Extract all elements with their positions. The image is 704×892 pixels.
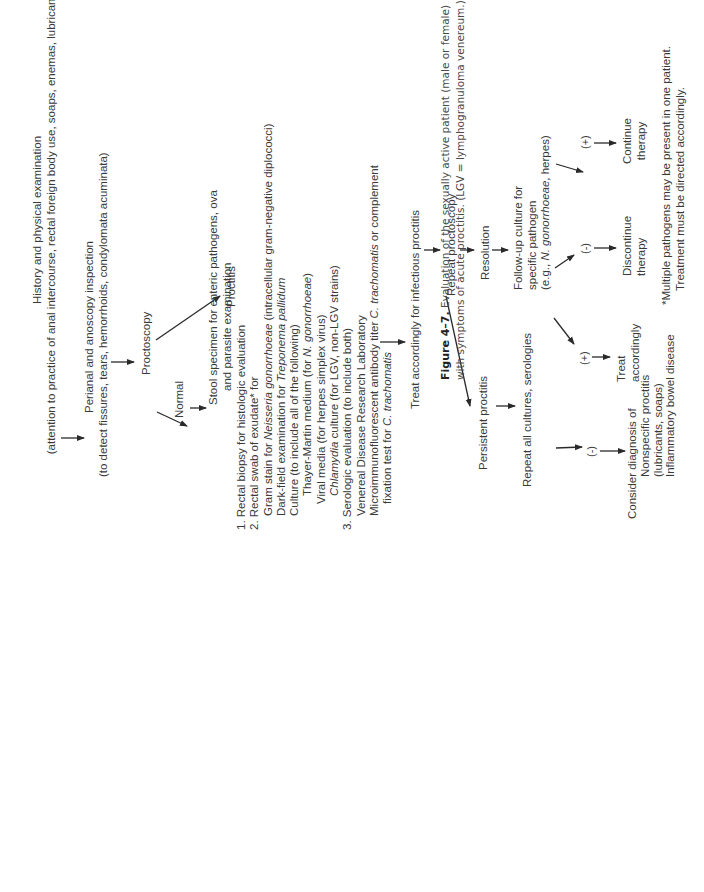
followup-positive-sign: (+) [578,135,592,149]
followup-negative-sign: (-) [578,243,592,254]
node-proctoscopy: Proctoscopy [139,312,153,375]
workup-chlamydia: Chlamydia culture (for LGV, non-LGV stra… [328,124,341,530]
perianal-detail: (to detect fissures, tears, hemorrhoids,… [96,177,110,477]
discontinue-line1: Discontinue [620,216,634,276]
repeat-positive-sign: (+) [577,351,591,365]
workup-viral-media: Viral media (for herpes simplex virus) [315,124,328,530]
caption-line1: Figure 4–7. Evaluation of the sexually a… [438,0,453,380]
workup-item-1: 1. Rectal biopsy for histologic evaluati… [235,124,248,530]
text-italic: C. trachomatis [381,352,393,426]
text: , herpes) [539,135,551,180]
workup-fixation: fixation test for C. trachomatis [381,124,394,530]
text: Gram stain for [262,440,274,516]
stool-line1: Stool specimen for enteric pathogens, ov… [206,190,220,405]
text: fixation test for [381,426,393,504]
followup-line1: Follow-up culture for [512,135,526,290]
figure-caption: Figure 4–7. Evaluation of the sexually a… [438,0,467,380]
repeat-negative-sign: (-) [584,446,598,457]
workup-thayer-martin: Thayer-Martin medium (for N. gonorrhoeae… [301,124,314,530]
node-perianal-inspection: Perianal and anoscopy inspection (to det… [82,177,110,477]
workup-dark-field: Dark-field examination for Treponema pal… [275,124,288,530]
text-italic: Neisseria gonorrhoeae [262,324,274,440]
text-italic: N. gonorrhoeae [539,181,551,261]
text: Microimmunofluorescent antibody titer [368,319,380,517]
text: (e.g., [539,261,551,290]
workup-gram-stain: Gram stain for Neisseria gonorrhoeae (in… [262,124,275,530]
workup-culture: Culture (to include all of the following… [288,124,301,530]
footnote-line1: *Multiple pathogens may be present in on… [660,46,674,305]
history-detail: (attention to practice of anal intercour… [44,0,58,490]
text: Evaluation of the sexually active patien… [439,5,451,308]
discontinue-line2: therapy [634,216,648,276]
consider-line2: Nonspecific proctitis [639,334,652,519]
caption-label: Figure 4–7. [439,311,452,380]
workup-microimmuno: Microimmunofluorescent antibody titer C.… [368,124,381,530]
history-title: History and physical examination [30,0,44,490]
consider-line1: Consider diagnosis of [626,334,639,519]
text: Dark-field examination for [275,382,287,516]
node-resolution: Resolution [478,226,492,280]
node-persistent-proctitis: Persistent proctitis [476,376,490,470]
workup-list: 1. Rectal biopsy for histologic evaluati… [235,124,395,530]
consider-line4: Inflammatory bowel disease [664,334,677,519]
text: ) [301,273,313,277]
node-consider-diagnosis: Consider diagnosis of Nonspecific procti… [626,334,677,519]
text-italic: Chlamydia [328,442,340,496]
text-italic: Treponema pallidum [275,278,287,382]
node-history: History and physical examination (attent… [30,0,58,490]
node-normal: Normal [172,381,186,418]
node-continue-therapy: Continue therapy [620,113,648,169]
continue-line2: therapy [634,113,648,169]
figure-frame: History and physical examination (attent… [0,0,704,892]
workup-item-2: 2. Rectal swab of exudate* for [248,124,261,530]
followup-line3: (e.g., N. gonorrhoeae, herpes) [539,135,553,290]
footnote: *Multiple pathogens may be present in on… [660,46,687,305]
node-repeat-all-cultures: Repeat all cultures, serologies [520,333,534,487]
continue-line1: Continue [620,113,634,169]
consider-line3: (lubricants, soaps) [652,334,665,519]
perianal-title: Perianal and anoscopy inspection [82,177,96,477]
text: culture (for LGV, non-LGV strains) [328,265,340,442]
workup-vdrl: Venereal Disease Research Laboratory [355,124,368,530]
text-italic: C. trachomatis [368,244,380,318]
text: (intracellular gram-negative diplococci) [262,124,274,324]
text-italic: N. gonorrhoeae [301,277,313,357]
flowchart-canvas: History and physical examination (attent… [0,0,704,892]
text: or complement [368,165,380,244]
node-treat-infectious: Treat accordingly for infectious proctit… [408,210,422,409]
footnote-line2: Treatment must be directed accordingly. [674,46,688,305]
text: Thayer-Martin medium (for [301,357,313,496]
workup-item-3: 3. Serologic evaluation (to include both… [341,124,354,530]
caption-line2: with symptoms of acute proctitis. (LGV =… [453,0,467,380]
followup-line2: specific pathogen [526,135,540,290]
node-discontinue-therapy: Discontinue therapy [620,216,648,276]
node-followup-culture: Follow-up culture for specific pathogen … [512,135,553,290]
